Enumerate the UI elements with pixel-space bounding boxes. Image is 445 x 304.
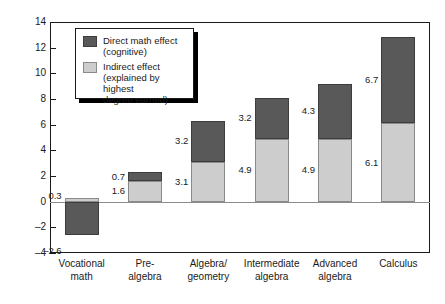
- bar-segment-indirect: [318, 139, 352, 202]
- y-tick-label: 2: [18, 171, 46, 181]
- y-tick-label: 6: [18, 120, 46, 130]
- y-tick-mark: [50, 227, 56, 228]
- y-tick-label: 4: [18, 145, 46, 155]
- legend-swatch-indirect-icon: [83, 62, 97, 73]
- bar-segment-direct: [381, 37, 415, 123]
- y-tick-label: 8: [18, 94, 46, 104]
- bar-value-label: 3.1: [148, 177, 188, 187]
- bar-value-label: –2.6: [22, 246, 62, 256]
- legend-item-direct: Direct math effect (cognitive): [83, 35, 187, 57]
- stacked-bar-chart: Percentage 14121086420–2–4 0.3–2.61.60.7…: [0, 0, 445, 304]
- legend-label-direct: Direct math effect (cognitive): [103, 35, 177, 57]
- bar-segment-direct: [255, 98, 289, 139]
- y-tick-label: 10: [18, 68, 46, 78]
- bar-segment-direct: [318, 84, 352, 139]
- y-tick-label: 12: [18, 43, 46, 53]
- y-tick-mark: [50, 22, 56, 23]
- legend-indirect-line1: Indirect effect: [103, 61, 160, 72]
- bar-value-label: 6.7: [338, 75, 378, 85]
- bar-segment-direct: [191, 121, 225, 162]
- legend-label-indirect: Indirect effect (explained by highest de…: [103, 61, 187, 105]
- bar-value-label: 1.6: [85, 186, 125, 196]
- y-tick-mark: [50, 73, 56, 74]
- bar-value-label: 3.2: [148, 136, 188, 146]
- x-axis-label: Calculus: [355, 258, 441, 271]
- zero-line: [50, 202, 430, 203]
- y-tick-mark: [50, 99, 56, 100]
- legend-item-indirect: Indirect effect (explained by highest de…: [83, 61, 187, 105]
- y-tick-label: 14: [18, 17, 46, 27]
- bar-value-label: 6.1: [338, 158, 378, 168]
- bar-value-label: 0.3: [22, 191, 62, 201]
- bar-segment-direct: [65, 202, 99, 235]
- y-tick-mark: [50, 125, 56, 126]
- bar-value-label: 4.9: [212, 165, 252, 175]
- bar-value-label: 0.7: [85, 172, 125, 182]
- bar-segment-indirect: [381, 123, 415, 201]
- chart-legend: Direct math effect (cognitive) Indirect …: [75, 28, 194, 99]
- bar-value-label: 3.2: [212, 113, 252, 123]
- legend-direct-line1: Direct math effect: [103, 35, 177, 46]
- bar-value-label: 4.3: [275, 106, 315, 116]
- y-tick-label: –2: [18, 222, 46, 232]
- bar-value-label: 4.9: [275, 165, 315, 175]
- legend-direct-line2: (cognitive): [103, 46, 147, 57]
- y-tick-mark: [50, 150, 56, 151]
- legend-swatch-direct-icon: [83, 36, 97, 47]
- y-tick-mark: [50, 176, 56, 177]
- legend-indirect-line3: degree earned): [103, 94, 168, 105]
- legend-indirect-line2: (explained by highest: [103, 72, 160, 94]
- y-tick-mark: [50, 48, 56, 49]
